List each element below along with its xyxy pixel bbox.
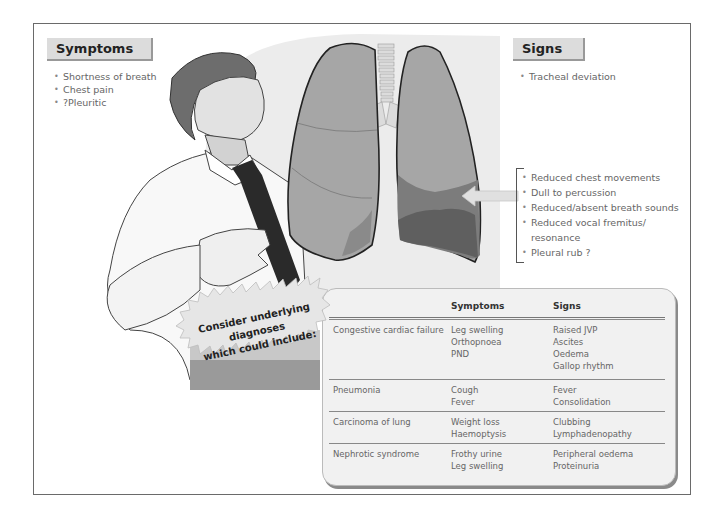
starburst-callout-icon: [0, 0, 726, 517]
